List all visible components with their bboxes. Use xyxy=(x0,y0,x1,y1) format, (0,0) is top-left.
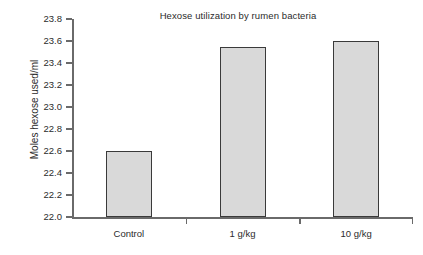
y-tick-label: 22.2 xyxy=(24,189,62,200)
y-tick-label: 23.8 xyxy=(24,13,62,24)
y-tick-label: 23.4 xyxy=(24,57,62,68)
y-tick-mark xyxy=(66,62,72,64)
y-tick-mark xyxy=(66,194,72,196)
x-tick-mark-end xyxy=(412,218,414,224)
chart-title: Hexose utilization by rumen bacteria xyxy=(88,10,388,21)
y-tick-mark xyxy=(66,172,72,174)
y-tick-mark xyxy=(66,40,72,42)
x-axis-line xyxy=(72,217,413,219)
y-tick-label: 23.0 xyxy=(24,101,62,112)
x-tick-mark xyxy=(299,218,301,224)
y-tick-label: 22.8 xyxy=(24,123,62,134)
y-tick-mark xyxy=(66,216,72,218)
bar xyxy=(220,47,266,218)
x-category-label: Control xyxy=(79,228,179,239)
y-tick-mark xyxy=(66,106,72,108)
x-category-label: 1 g/kg xyxy=(193,228,293,239)
y-tick-label: 22.6 xyxy=(24,145,62,156)
y-tick-label: 22.0 xyxy=(24,211,62,222)
y-tick-mark xyxy=(66,18,72,20)
y-tick-label: 23.2 xyxy=(24,79,62,90)
y-tick-mark xyxy=(66,128,72,130)
y-tick-label: 22.4 xyxy=(24,167,62,178)
bar xyxy=(106,151,152,217)
y-tick-mark xyxy=(66,84,72,86)
y-tick-label: 23.6 xyxy=(24,35,62,46)
x-tick-mark xyxy=(186,218,188,224)
bar-chart: Hexose utilization by rumen bacteria Mol… xyxy=(0,0,423,255)
y-axis-line xyxy=(72,19,74,218)
y-tick-mark xyxy=(66,150,72,152)
bar xyxy=(333,41,379,217)
x-category-label: 10 g/kg xyxy=(306,228,406,239)
